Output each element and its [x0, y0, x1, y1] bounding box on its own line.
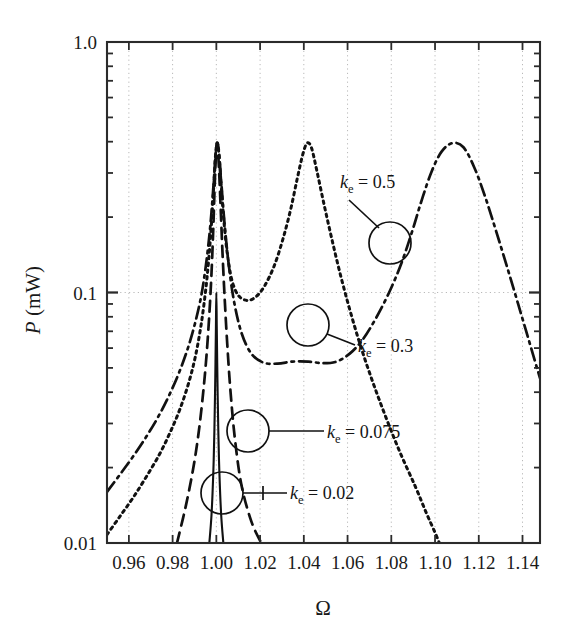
tick-labels: 0.960.981.001.021.041.061.081.101.121.14…	[64, 32, 540, 573]
x-tick-label: 1.12	[462, 552, 495, 573]
leader-line	[327, 334, 355, 345]
callout-circle	[201, 472, 243, 514]
x-tick-label: 1.14	[506, 552, 540, 573]
x-tick-label: 1.00	[200, 552, 233, 573]
x-tick-label: 0.98	[156, 552, 189, 573]
y-tick-label: 0.1	[73, 283, 97, 304]
x-tick-label: 1.10	[418, 552, 451, 573]
x-axis-title: Ω	[315, 596, 331, 620]
leader-line	[349, 200, 379, 228]
x-tick-label: 1.02	[243, 552, 276, 573]
annotation-label: ke = 0.3	[358, 336, 413, 360]
x-tick-label: 1.08	[375, 552, 408, 573]
curve-solid	[209, 293, 223, 544]
x-tick-label: 0.96	[112, 552, 145, 573]
annotation-label: ke = 0.02	[290, 483, 354, 507]
callout-circle	[369, 222, 411, 264]
y-tick-label: 0.01	[64, 533, 97, 554]
x-tick-label: 1.06	[331, 552, 364, 573]
gridlines	[107, 42, 540, 543]
y-tick-label: 1.0	[73, 32, 97, 53]
annotation-label: ke = 0.075	[327, 422, 400, 446]
y-axis-title: P (mW)	[21, 266, 45, 335]
curve-annotations: ke = 0.5ke = 0.3ke = 0.075ke = 0.02	[201, 172, 413, 514]
chart-figure: 0.960.981.001.021.041.061.081.101.121.14…	[0, 0, 569, 627]
x-tick-label: 1.04	[287, 552, 321, 573]
annotation-label: ke = 0.5	[340, 172, 395, 196]
callout-circle	[287, 304, 329, 346]
